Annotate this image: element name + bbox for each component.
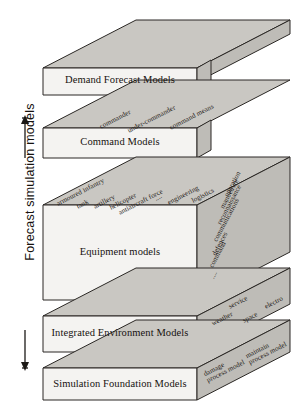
layer-label-simulation-foundation-models: Simulation Foundation Models — [40, 378, 200, 389]
layer-label-equipment-models: Equipment models — [43, 246, 197, 257]
layer-label-demand-forecast-models: Demand Forecast Models — [43, 74, 197, 85]
diagram-canvas: .front{fill:#f4f3f1;stroke:#2a2724;strok… — [0, 0, 299, 411]
layer-label-integrated-environment-models: Integrated Environment Models — [40, 327, 200, 338]
axis-caption: Forecast simulation models — [23, 92, 37, 272]
layer-label-command-models: Command Models — [43, 136, 197, 147]
